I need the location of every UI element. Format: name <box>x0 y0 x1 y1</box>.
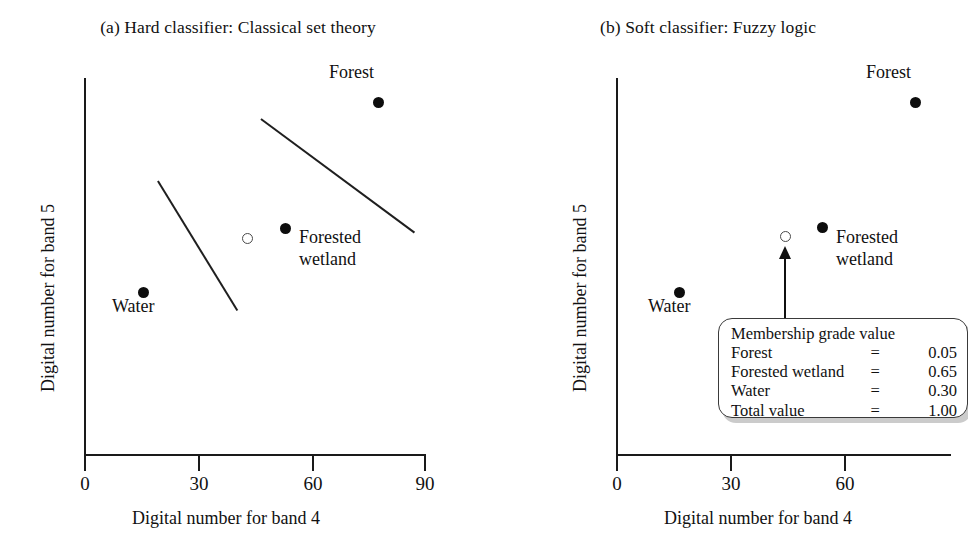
panel-b-y-axis-title: Digital number for band 5 <box>570 204 591 392</box>
panel-b-x-axis <box>616 454 951 456</box>
panel-a-y-axis <box>84 78 86 456</box>
membership-row-water: Water = 0.30 <box>731 381 957 400</box>
membership-row-forest-name: Forest <box>731 343 870 362</box>
panel-b-tick-60 <box>844 454 846 471</box>
panel-a-point-mixed-pixel <box>242 233 253 244</box>
panel-a-boundary-lower <box>157 180 238 311</box>
panel-b-point-forest <box>910 97 921 108</box>
panel-a-label-forested-wetland-line1: Forested <box>299 228 361 247</box>
membership-row-total-value: 1.00 <box>928 401 957 420</box>
membership-box-heading: Membership grade value <box>731 324 957 343</box>
panel-b-y-axis <box>616 78 618 456</box>
panel-a-tick-30 <box>198 454 200 471</box>
panel-b-label-forested-wetland-line1: Forested <box>836 228 898 247</box>
panel-b-tick-0 <box>616 454 618 471</box>
panel-a-label-forest: Forest <box>329 63 374 82</box>
panel-a-tick-60 <box>312 454 314 471</box>
membership-row-total: Total value = 1.00 <box>731 401 957 420</box>
panel-b-label-forest: Forest <box>866 63 911 82</box>
panel-a-ticklabel-0: 0 <box>65 473 105 495</box>
panel-b-ticklabel-30: 30 <box>711 473 751 495</box>
panel-b-title: (b) Soft classifier: Fuzzy logic <box>600 17 816 38</box>
membership-grade-box: Membership grade value Forest = 0.05 For… <box>718 318 968 418</box>
panel-b-label-water: Water <box>648 297 691 316</box>
panel-a-ticklabel-30: 30 <box>179 473 219 495</box>
membership-row-forested-wetland: Forested wetland = 0.65 <box>731 362 957 381</box>
panel-soft-classifier: (b) Soft classifier: Fuzzy logic 0 30 60… <box>475 0 951 554</box>
panel-a-tick-0 <box>84 454 86 471</box>
panel-a-label-forested-wetland-line2: wetland <box>299 250 356 269</box>
panel-a-y-axis-title: Digital number for band 5 <box>38 204 59 392</box>
membership-row-forested-wetland-eq: = <box>870 362 928 381</box>
panel-a-ticklabel-90: 90 <box>405 473 445 495</box>
panel-a-point-forest <box>373 97 384 108</box>
annotation-arrow-head <box>779 246 791 259</box>
membership-row-water-eq: = <box>870 381 928 400</box>
panel-a-label-water: Water <box>112 297 155 316</box>
membership-row-total-name: Total value <box>731 401 870 420</box>
membership-row-forest: Forest = 0.05 <box>731 343 957 362</box>
panel-a-x-axis <box>84 454 426 456</box>
panel-hard-classifier: (a) Hard classifier: Classical set theor… <box>0 0 476 554</box>
membership-row-forest-eq: = <box>870 343 928 362</box>
panel-a-ticklabel-60: 60 <box>293 473 333 495</box>
panel-a-point-forested-wetland <box>280 223 291 234</box>
panel-b-x-axis-title: Digital number for band 4 <box>664 508 852 529</box>
panel-a-x-axis-title: Digital number for band 4 <box>132 508 320 529</box>
panel-b-ticklabel-0: 0 <box>597 473 637 495</box>
panel-b-point-forested-wetland <box>817 222 828 233</box>
membership-row-total-eq: = <box>870 401 928 420</box>
membership-row-water-name: Water <box>731 381 870 400</box>
membership-row-forested-wetland-value: 0.65 <box>928 362 957 381</box>
membership-row-forest-value: 0.05 <box>928 343 957 362</box>
panel-b-label-forested-wetland-line2: wetland <box>836 250 893 269</box>
panel-a-title: (a) Hard classifier: Classical set theor… <box>0 17 476 38</box>
panel-b-point-mixed-pixel <box>780 231 791 242</box>
panel-a-boundary-upper <box>260 118 415 233</box>
panel-b-tick-30 <box>730 454 732 471</box>
panel-a-tick-90 <box>424 454 426 471</box>
membership-row-forested-wetland-name: Forested wetland <box>731 362 870 381</box>
panel-b-ticklabel-60: 60 <box>825 473 865 495</box>
membership-row-water-value: 0.30 <box>928 381 957 400</box>
